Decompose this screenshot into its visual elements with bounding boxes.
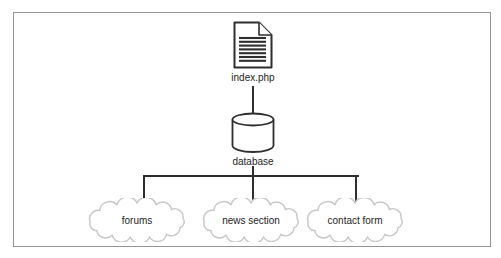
document-label: index.php (215, 71, 291, 83)
document-icon (233, 21, 273, 69)
cloud-news-section: news section (196, 198, 306, 242)
cloud-label: news section (199, 198, 304, 242)
cloud-forums: forums (82, 198, 192, 242)
cloud-contact-form: contact form (300, 198, 410, 242)
branch-horizontal-line (143, 175, 359, 177)
diagram-canvas: index.php database forums news section c… (0, 0, 501, 258)
cloud-label: forums (85, 198, 190, 242)
database-icon (231, 112, 275, 154)
database-label: database (215, 155, 291, 167)
cloud-label: contact form (303, 198, 408, 242)
